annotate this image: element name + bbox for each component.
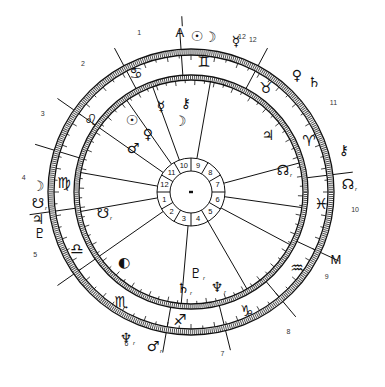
tick — [122, 104, 125, 108]
tick — [103, 87, 106, 91]
tick — [305, 124, 309, 127]
sign-taurus-icon: ♉ — [259, 79, 272, 97]
tick — [72, 258, 76, 261]
tick — [231, 88, 233, 93]
tick — [214, 57, 215, 62]
outer-house-number: 9 — [325, 273, 329, 280]
outer-cusp-line — [307, 175, 327, 177]
tick — [292, 277, 296, 280]
outer-planet-mars-icon: ♂ — [147, 338, 160, 354]
tick — [257, 306, 260, 310]
tick — [97, 251, 100, 253]
inner-planet-south-node-icon: ☋ — [97, 205, 109, 221]
outer-house-number: 8 — [287, 328, 291, 335]
inner-planet-moon-full-icon: ◐ — [118, 254, 130, 270]
tick — [109, 266, 111, 268]
sign-gemini-icon: ♊ — [197, 53, 210, 71]
hub-house-number: 7 — [215, 180, 219, 189]
midheaven-label: M — [331, 252, 342, 267]
tick — [156, 85, 158, 90]
outer-house-number: 6 — [125, 340, 129, 347]
outer-planet-venus-icon: ♀ — [292, 67, 302, 83]
tick — [241, 286, 243, 290]
outer-cusp-line — [181, 55, 182, 75]
tick — [124, 279, 126, 281]
tick — [297, 176, 302, 177]
outer-planet-pluto-icon: ♇ — [34, 225, 47, 241]
inner-planet-mars-icon: ♂ — [127, 140, 140, 156]
inner-cusp-line — [225, 197, 302, 208]
tick — [250, 283, 252, 286]
outer-cusp-line — [266, 282, 279, 297]
outer-cusp-extension — [57, 99, 73, 110]
tick — [130, 98, 132, 101]
tick — [234, 292, 235, 295]
outer-cusp-line — [167, 307, 170, 327]
outer-planet-saturn-icon: ♄ — [308, 74, 321, 90]
tick — [175, 81, 176, 86]
tick — [167, 57, 168, 62]
inner-planet-venus-icon: ♀ — [143, 126, 153, 142]
planet-note: 12 — [238, 33, 246, 40]
outer-planet-sun-icon: ☉ — [191, 28, 204, 44]
outer-cusp-extension — [57, 274, 73, 285]
tick — [268, 302, 270, 304]
sign-aquarius-icon: ♒ — [290, 259, 303, 277]
tick — [240, 92, 241, 95]
tick — [275, 123, 279, 126]
hub-house-number: 8 — [208, 168, 212, 177]
tick — [168, 297, 169, 302]
tick — [94, 95, 96, 97]
outer-cusp-extension — [35, 144, 54, 150]
tick — [301, 113, 303, 115]
ascendant-marker — [182, 16, 183, 26]
tick — [103, 258, 107, 261]
tick — [257, 73, 260, 77]
sign-pisces-icon: ♓ — [314, 195, 327, 213]
tick — [132, 283, 135, 287]
tick — [103, 293, 106, 297]
outer-cusp-extension — [258, 48, 267, 66]
tick — [321, 168, 326, 169]
inner-planet-sun-icon: ☉ — [126, 112, 139, 128]
outer-house-number: 11 — [330, 99, 337, 106]
center-dot — [189, 191, 193, 193]
hub-house-number: 11 — [168, 168, 176, 177]
inner-planet-mercury-icon: ☿ — [157, 98, 166, 114]
tick — [276, 87, 279, 91]
inner-planet-pluto-icon: ♇ — [190, 265, 203, 281]
sign-libra-icon: ♎ — [70, 240, 83, 258]
ascendant-label: A — [176, 25, 185, 40]
hub-house-number: 1 — [162, 195, 166, 204]
tick — [149, 291, 151, 296]
sign-capricorn-icon: ♑ — [240, 302, 253, 320]
sign-cancer-icon: ♋ — [129, 64, 142, 82]
tick — [138, 93, 140, 97]
outer-house-number: 1 — [137, 29, 141, 36]
inner-cusp-line — [221, 208, 290, 245]
outer-cusp-extension — [226, 331, 231, 350]
outer-house-number: 5 — [33, 251, 37, 258]
outer-cusp-extension — [163, 333, 166, 353]
tick — [123, 73, 126, 77]
outer-planet-node-icon: ☊ — [342, 176, 354, 192]
tick — [292, 104, 296, 107]
tick — [305, 258, 309, 261]
outer-planet-chiron-icon: ⚷ — [339, 142, 349, 158]
tick — [116, 272, 119, 276]
tick — [140, 289, 141, 292]
hub-house-number: 6 — [215, 195, 219, 204]
hub-house-number: 3 — [182, 214, 186, 223]
outer-cusp-line — [297, 241, 315, 249]
outer-cusp-line — [246, 71, 255, 89]
sign-aries-icon: ♈ — [302, 132, 315, 150]
outer-cusp-extension — [333, 172, 353, 174]
inner-cusp-line — [81, 198, 158, 212]
outer-cusp-line — [219, 306, 224, 325]
tick — [286, 287, 288, 289]
outer-planet-south-node-icon: ☋ — [32, 195, 44, 211]
tick — [62, 145, 67, 147]
sign-leo-icon: ♌ — [84, 111, 97, 129]
inner-planet-chiron-icon: ⚷ — [181, 95, 191, 111]
tick — [236, 316, 238, 321]
